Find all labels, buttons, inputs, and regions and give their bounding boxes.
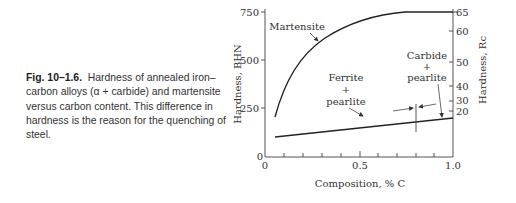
rc-tick-50: 50 [456,57,469,68]
ferrite-label: Ferrite [328,72,363,83]
left-y-axis-title: Hardness, BHN [232,44,243,124]
x-tick-0.5: 0.5 [352,160,368,171]
hardness-chart: 750 500 250 0 0 0.5 1.0 65 60 50 40 30 2… [0,0,516,203]
carbide-arrow [438,84,442,117]
x-tick-1.0: 1.0 [445,160,461,171]
x-ticks: 0 0.5 1.0 [262,151,461,171]
right-arrow [419,104,436,107]
ferrite-plus: + [342,84,350,95]
right-y-ticks: 65 60 50 40 30 20 [449,7,469,117]
rc-tick-40: 40 [456,81,469,92]
carbide-pearlite-label: pearlite [407,72,446,83]
rc-tick-20: 20 [456,106,469,117]
ferrite-pearlite-label: pearlite [326,96,365,107]
rc-tick-65: 65 [456,7,469,18]
right-y-axis-title: Hardness, Rc [477,36,488,104]
rc-tick-60: 60 [456,26,469,37]
x-tick-0: 0 [262,160,268,171]
carbide-label: Carbide [407,50,447,61]
y-tick-750: 750 [240,7,259,18]
left-arrow [393,108,413,111]
rc-tick-30: 30 [456,95,469,106]
ferrite-arrow [349,108,363,116]
left-y-ticks: 750 500 250 0 [240,7,265,162]
martensite-label: Martensite [269,21,325,32]
martensite-arrow [310,33,318,41]
x-axis-title: Composition, % C [315,178,406,189]
annealed-line [275,118,453,137]
carbide-plus: + [423,61,431,72]
